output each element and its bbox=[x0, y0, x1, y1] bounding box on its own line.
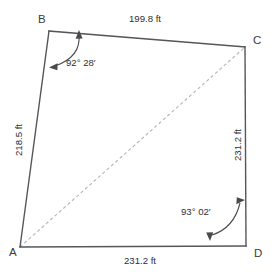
angle-arc-D-arrowhead-right bbox=[236, 197, 245, 204]
angle-label-D: 93° 02′ bbox=[181, 206, 211, 217]
edge-label-AD: 231.2 ft bbox=[124, 255, 156, 266]
vertex-label-B: B bbox=[38, 13, 46, 25]
vertex-label-A: A bbox=[9, 246, 17, 258]
quadrilateral-figure: A B C D 218.5 ft 199.8 ft 231.2 ft 231.2… bbox=[0, 0, 271, 280]
vertex-label-D: D bbox=[254, 247, 262, 259]
edge-label-AB: 218.5 ft bbox=[13, 124, 24, 156]
survey-diagram: A B C D 218.5 ft 199.8 ft 231.2 ft 231.2… bbox=[0, 0, 271, 280]
angle-arc-B-arrowhead-top bbox=[76, 30, 83, 39]
edge-CD bbox=[245, 47, 246, 246]
edge-label-BC: 199.8 ft bbox=[129, 13, 161, 24]
edge-label-CD: 231.2 ft bbox=[232, 129, 243, 161]
angle-arc-D-arrowhead-bottom bbox=[206, 232, 213, 241]
angle-arc-D bbox=[212, 203, 240, 235]
angle-label-B: 92° 28′ bbox=[66, 57, 96, 68]
edge-AB bbox=[20, 31, 49, 247]
vertex-label-C: C bbox=[253, 34, 261, 46]
edge-AD bbox=[20, 246, 246, 247]
diagonal-AC bbox=[20, 48, 244, 247]
angle-arc-B-arrowhead-bottom bbox=[49, 63, 58, 70]
